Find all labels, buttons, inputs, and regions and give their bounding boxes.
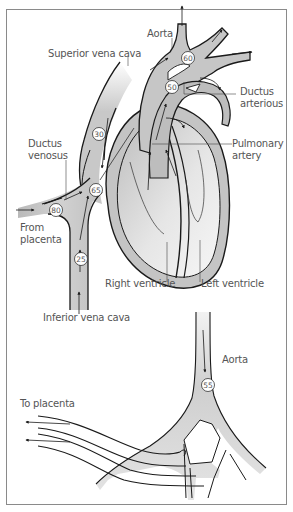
badge-aorta-arch: 60 — [182, 52, 195, 65]
svg-text:50: 50 — [167, 83, 177, 92]
label-ductus-venosus: Ductus venosus — [28, 138, 68, 162]
label-ductus-arterious: Ductus arterious — [240, 86, 283, 110]
badge-superior-vena-cava: 30 — [93, 128, 106, 141]
label-aorta-bottom: Aorta — [222, 354, 248, 366]
svg-text:25: 25 — [76, 255, 86, 264]
label-right-ventricle: Right ventricle — [105, 278, 175, 290]
badge-inferior-vena-cava: 25 — [75, 253, 88, 266]
label-left-ventricle: Left ventricle — [201, 278, 264, 290]
label-pulmonary-artery: Pulmonary artery — [232, 138, 284, 162]
svg-text:65: 65 — [91, 186, 101, 195]
badge-descending-aorta: 55 — [202, 379, 215, 392]
label-from-placenta: From placenta — [20, 222, 62, 246]
label-to-placenta: To placenta — [20, 398, 75, 410]
svg-text:60: 60 — [183, 54, 193, 63]
badge-umbilical-vein: 80 — [50, 204, 63, 217]
svg-text:80: 80 — [51, 206, 61, 215]
descending-aorta — [96, 312, 266, 500]
badge-ductus-arterious: 50 — [166, 81, 179, 94]
label-superior-vena-cava: Superior vena cava — [48, 48, 141, 60]
svg-text:30: 30 — [94, 130, 104, 139]
badge-right-atrium: 65 — [90, 184, 103, 197]
fetal-circulation-diagram: 60 50 30 65 80 25 55 — [0, 0, 293, 512]
label-inferior-vena-cava: Inferior vena cava — [43, 312, 130, 324]
svg-text:55: 55 — [203, 381, 213, 390]
label-aorta-top: Aorta — [147, 28, 173, 40]
